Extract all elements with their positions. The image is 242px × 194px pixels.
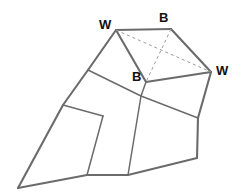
bottom-outer-edge xyxy=(18,158,197,188)
interior-divider-group xyxy=(63,70,198,175)
diagonal-B-to-B-dashed xyxy=(146,29,171,82)
divider-lower-left-horizontal xyxy=(63,105,103,116)
label-w-right: W xyxy=(216,64,228,77)
top-edge-W-to-B xyxy=(116,29,171,30)
diagram-svg xyxy=(0,0,242,194)
left-outer-edge xyxy=(18,30,116,188)
label-b-top-right: B xyxy=(159,11,168,24)
divider-center-to-right-mid xyxy=(141,96,198,118)
label-w-top-left: W xyxy=(99,18,111,31)
diagram-canvas: W B W B xyxy=(0,0,242,194)
label-b-center: B xyxy=(132,70,141,83)
solid-edge-group xyxy=(18,29,211,188)
diagonal-W-to-W-dashed xyxy=(116,30,211,72)
inner-edge-B-center-to-W-right xyxy=(146,72,211,82)
divider-center-vertical xyxy=(128,96,141,175)
right-outer-edge xyxy=(197,72,211,158)
divider-upper-vertical-left xyxy=(87,116,103,175)
upper-right-edge-B-to-W xyxy=(171,29,211,72)
divider-B-center-down xyxy=(141,82,146,96)
inner-edge-W-to-B-center xyxy=(116,30,146,82)
